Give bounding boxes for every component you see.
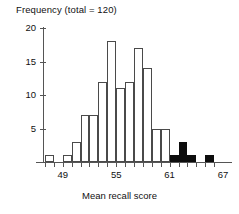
histogram-bar: [89, 115, 98, 162]
x-axis-tick-label: 49: [48, 169, 78, 180]
histogram-chart: Frequency (total = 120) Mean recall scor…: [0, 0, 239, 214]
y-axis-tick-label: 15: [12, 56, 36, 67]
x-axis-tick-label: 55: [101, 169, 131, 180]
x-axis-tick: [196, 163, 197, 167]
y-axis-tick: [40, 28, 46, 29]
x-axis-tick: [161, 163, 162, 167]
histogram-bar: [107, 41, 116, 162]
histogram-bar: [134, 48, 143, 162]
y-axis-tick-label: 20: [12, 22, 36, 33]
x-axis-tick: [134, 163, 135, 167]
histogram-bar: [170, 155, 179, 162]
x-axis-tick: [214, 163, 215, 167]
x-axis-tick-label: 61: [155, 169, 185, 180]
x-axis-tick: [179, 163, 180, 167]
x-axis-tick: [187, 163, 188, 167]
x-axis-tick: [125, 163, 126, 167]
x-axis-tick: [54, 163, 55, 167]
histogram-bar: [187, 155, 196, 162]
x-axis-tick: [72, 163, 73, 167]
histogram-bar: [116, 88, 125, 162]
y-axis-tick: [40, 129, 46, 130]
histogram-bar: [152, 129, 161, 163]
histogram-bar: [125, 82, 134, 162]
x-axis-tick: [152, 163, 153, 167]
x-axis-tick: [170, 163, 171, 167]
histogram-bar: [98, 82, 107, 162]
x-axis-tick: [89, 163, 90, 167]
x-axis-tick: [143, 163, 144, 167]
y-axis-tick: [40, 62, 46, 63]
histogram-bar: [45, 155, 54, 162]
y-axis-tick-label: 10: [12, 89, 36, 100]
histogram-bar: [143, 68, 152, 162]
histogram-bar: [205, 155, 214, 162]
histogram-bar: [63, 155, 72, 162]
x-axis-tick-label: 67: [208, 169, 238, 180]
x-axis-tick: [81, 163, 82, 167]
x-axis-tick: [107, 163, 108, 167]
y-axis-tick: [40, 95, 46, 96]
histogram-bar: [81, 115, 90, 162]
histogram-bar: [161, 129, 170, 163]
y-axis-tick-label: 5: [12, 123, 36, 134]
x-axis-label: Mean recall score: [0, 190, 239, 201]
x-axis-tick: [205, 163, 206, 167]
histogram-bar: [72, 142, 81, 162]
x-axis-tick: [63, 163, 64, 167]
histogram-bar: [179, 142, 188, 162]
x-axis-tick: [98, 163, 99, 167]
x-axis-tick: [116, 163, 117, 167]
x-axis-tick: [45, 163, 46, 167]
